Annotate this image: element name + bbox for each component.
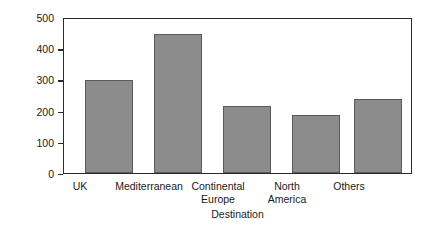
y-axis-tick: 400	[0, 49, 63, 50]
y-axis-tick-label: 500	[36, 10, 54, 26]
y-axis-tick-label: 100	[36, 135, 54, 151]
bar-mediterranean	[154, 34, 202, 173]
y-axis-tick-mark	[58, 174, 63, 175]
bar-continental-europe	[223, 106, 271, 173]
bar-others	[354, 99, 402, 173]
bar-uk	[85, 80, 133, 173]
x-axis-label-others: Others	[307, 180, 391, 193]
bar-chart-figure: No. of respondents 0 100 200 300 400 500	[0, 0, 434, 232]
y-axis-tick: 0	[0, 174, 63, 175]
bar-north-america	[292, 115, 340, 173]
y-axis-tick: 100	[0, 143, 63, 144]
y-axis-tick: 200	[0, 112, 63, 113]
y-axis-tick: 300	[0, 80, 63, 81]
y-axis-tick: 500	[0, 18, 63, 19]
x-axis-title: Destination	[63, 208, 412, 221]
y-axis-tick-label: 400	[36, 41, 54, 57]
y-axis-tick-label: 300	[36, 72, 54, 88]
y-axis-tick-label: 200	[36, 104, 54, 120]
plot-area	[63, 18, 412, 174]
